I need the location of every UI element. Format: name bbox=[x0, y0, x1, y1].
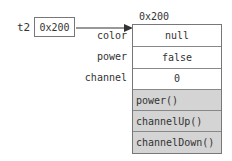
field-label-channel: channel bbox=[85, 67, 127, 88]
field-value-channel: 0 bbox=[133, 68, 221, 89]
reference-box: 0x200 bbox=[34, 17, 75, 37]
reference-value: 0x200 bbox=[39, 22, 69, 33]
field-value-color: null bbox=[133, 25, 221, 46]
field-label-power: power bbox=[97, 46, 127, 67]
method-power: power() bbox=[133, 89, 221, 110]
variable-name-label: t2 bbox=[17, 21, 30, 34]
method-channel-up: channelUp() bbox=[133, 110, 221, 131]
field-value-power: false bbox=[133, 46, 221, 67]
object-box: null false 0 power() channelUp() channel… bbox=[132, 24, 222, 154]
field-label-color: color bbox=[97, 25, 127, 46]
method-channel-down: channelDown() bbox=[133, 131, 221, 152]
object-address: 0x200 bbox=[139, 11, 169, 22]
